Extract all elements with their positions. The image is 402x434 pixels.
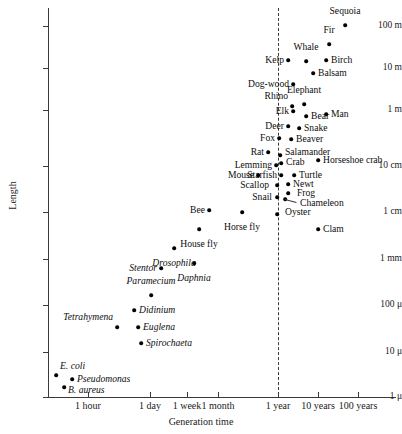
x-tick-mark xyxy=(150,392,151,398)
data-point-label: Fir xyxy=(323,25,334,35)
data-point-label: Paramecium xyxy=(126,276,175,286)
data-point xyxy=(279,173,283,177)
x-tick-mark xyxy=(358,392,359,398)
data-point xyxy=(172,246,176,250)
y-tick-label: 100 m xyxy=(360,21,402,31)
data-point-label: Man xyxy=(331,109,349,119)
data-point xyxy=(311,71,315,75)
data-point-label: Birch xyxy=(331,55,352,65)
y-tick-mark xyxy=(43,110,49,111)
data-point xyxy=(115,325,119,329)
y-tick-mark xyxy=(43,259,49,260)
one-year-reference-line xyxy=(278,8,279,390)
data-point-label: Elk xyxy=(276,106,289,116)
data-point xyxy=(149,293,153,297)
data-point-label: Bear xyxy=(311,111,329,121)
y-tick-mark xyxy=(43,68,49,69)
data-point xyxy=(275,195,279,199)
data-point xyxy=(70,377,74,381)
data-point-label: Rhino xyxy=(265,91,288,101)
x-axis-title: Generation time xyxy=(0,416,402,427)
data-point-label: Deer xyxy=(265,121,284,131)
x-tick-mark xyxy=(218,392,219,398)
data-point xyxy=(289,137,293,141)
y-tick-label: 1 cm xyxy=(360,207,402,217)
data-point xyxy=(292,173,296,177)
y-tick-mark xyxy=(43,26,49,27)
data-point xyxy=(62,385,66,389)
data-point-label: Bee xyxy=(190,205,205,215)
data-point-label: Crab xyxy=(286,157,305,167)
data-point xyxy=(297,126,301,130)
data-point-label: Stentor xyxy=(129,263,157,273)
data-point xyxy=(139,341,143,345)
data-point xyxy=(277,136,281,140)
data-point xyxy=(54,373,58,377)
data-point-label: Horse fly xyxy=(224,222,260,232)
scatter-plot-figure: 100 m10 m1 m10 cm1 cm1 mm100 μ10 μ1 μ 1 … xyxy=(0,0,402,434)
data-point-label: Spirochaeta xyxy=(146,338,192,348)
x-tick-mark xyxy=(187,392,188,398)
data-point xyxy=(136,325,140,329)
data-point xyxy=(327,42,331,46)
data-point-label: Horseshoe crab xyxy=(323,155,382,165)
data-point xyxy=(286,124,290,128)
y-axis-title: Length xyxy=(7,168,18,224)
data-point-label: Fox xyxy=(260,133,275,143)
data-point xyxy=(304,114,308,118)
y-tick-mark xyxy=(43,305,49,306)
data-point-label: Oyster xyxy=(285,207,311,217)
data-point-label: Whale xyxy=(293,42,318,52)
y-tick-mark xyxy=(43,352,49,353)
data-point-label: Dog-wood xyxy=(248,79,289,89)
data-point xyxy=(275,183,279,187)
data-point-label: Elephant xyxy=(287,85,321,95)
y-tick-label: 10 m xyxy=(360,63,402,73)
data-point-label: Clam xyxy=(323,224,344,234)
y-tick-label: 10 μ xyxy=(360,347,402,357)
y-axis-line xyxy=(48,8,49,398)
x-axis-line xyxy=(48,397,396,398)
y-tick-label: 100 μ xyxy=(360,300,402,310)
x-tick-label: 100 years xyxy=(318,401,398,411)
data-point xyxy=(132,308,136,312)
label-leader-line xyxy=(285,199,296,203)
data-point xyxy=(266,150,270,154)
data-point-label: Rat xyxy=(251,147,264,157)
data-point xyxy=(324,58,328,62)
y-tick-mark xyxy=(43,397,49,398)
data-point-label: Kelp xyxy=(265,55,284,65)
y-tick-mark xyxy=(43,166,49,167)
data-point xyxy=(278,153,282,157)
data-point xyxy=(291,109,295,113)
data-point-label: E. coli xyxy=(60,361,85,371)
x-tick-mark xyxy=(278,392,279,398)
data-point-label: Pseudomonas xyxy=(77,374,130,384)
y-tick-label: 1 m xyxy=(360,105,402,115)
data-point xyxy=(197,227,201,231)
data-point-label: House fly xyxy=(180,239,218,249)
y-tick-mark xyxy=(43,212,49,213)
data-point xyxy=(286,182,290,186)
data-point xyxy=(274,163,278,167)
data-point xyxy=(343,23,347,27)
data-point xyxy=(256,173,260,177)
y-tick-label: 1 mm xyxy=(360,254,402,264)
data-point-label: Didinium xyxy=(139,305,175,315)
data-point xyxy=(207,208,211,212)
data-point xyxy=(286,58,290,62)
data-point xyxy=(159,266,163,270)
data-point-label: Euglena xyxy=(143,322,175,332)
data-point xyxy=(286,191,290,195)
data-point-label: Snail xyxy=(252,192,272,202)
data-point xyxy=(279,161,283,165)
data-point-label: Tetrahymena xyxy=(63,312,113,322)
data-point xyxy=(192,261,196,265)
data-point-label: Scallop xyxy=(240,180,269,190)
data-point-label: B. aureus xyxy=(68,385,104,395)
data-point-label: Daphnia xyxy=(177,273,211,283)
data-point xyxy=(275,212,279,216)
data-point xyxy=(304,59,308,63)
x-tick-mark xyxy=(318,392,319,398)
data-point xyxy=(316,227,320,231)
